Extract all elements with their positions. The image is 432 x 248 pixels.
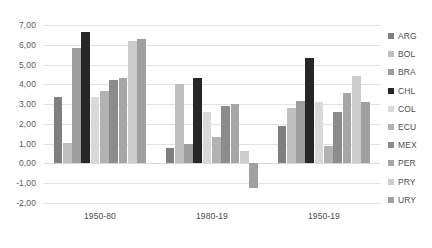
y-axis-tick-label: 1,00 xyxy=(19,139,36,149)
legend-item-label: CHL xyxy=(398,86,415,96)
bar-col-1980-19 xyxy=(203,112,212,163)
legend-item-label: PER xyxy=(398,158,416,168)
bar-bol-1950-80 xyxy=(63,143,72,164)
legend-item-col[interactable]: COL xyxy=(388,100,432,118)
x-axis: 1950-801980-191950-19 xyxy=(44,205,380,227)
bar-col-1950-80 xyxy=(91,97,100,163)
y-axis-tick-label: 3,00 xyxy=(19,99,36,109)
bar-bol-1950-19 xyxy=(287,108,296,163)
y-axis-tick-label: 7,00 xyxy=(19,20,36,30)
bar-ecu-1950-19 xyxy=(324,146,333,164)
legend-swatch-icon xyxy=(388,69,394,75)
bar-mex-1950-80 xyxy=(109,80,118,163)
legend-swatch-icon xyxy=(388,160,394,166)
x-axis-tick-label: 1980-19 xyxy=(196,211,228,221)
bar-ury-1980-19 xyxy=(249,163,258,188)
legend-swatch-icon xyxy=(388,33,394,39)
plot-area xyxy=(44,25,380,203)
legend-item-label: MEX xyxy=(398,140,417,150)
gridline xyxy=(44,203,380,204)
legend-item-bol[interactable]: BOL xyxy=(388,45,432,63)
y-axis-tick-label: 5,00 xyxy=(19,60,36,70)
legend-item-per[interactable]: PER xyxy=(388,154,432,172)
bar-chart: 7,006,005,004,003,002,001,000,00-1,00-2,… xyxy=(0,0,432,248)
y-axis-tick-label: 6,00 xyxy=(19,40,36,50)
bar-pry-1980-19 xyxy=(240,151,249,164)
y-axis-tick-label: 0,00 xyxy=(19,158,36,168)
legend-item-mex[interactable]: MEX xyxy=(388,136,432,154)
legend-item-label: URY xyxy=(398,195,416,205)
legend-swatch-icon xyxy=(388,197,394,203)
bar-col-1950-19 xyxy=(315,102,324,163)
legend-item-arg[interactable]: ARG xyxy=(388,27,432,45)
bar-ury-1950-80 xyxy=(137,39,146,164)
legend-item-label: PRY xyxy=(398,177,416,187)
bars-layer xyxy=(44,25,380,203)
y-axis-tick-label: 2,00 xyxy=(19,119,36,129)
bar-ury-1950-19 xyxy=(361,102,370,163)
bar-mex-1980-19 xyxy=(221,106,230,163)
y-axis-tick-label: -1,00 xyxy=(16,178,36,188)
bar-arg-1950-19 xyxy=(278,126,287,164)
bar-arg-1980-19 xyxy=(166,148,175,164)
legend-swatch-icon xyxy=(388,179,394,185)
bar-per-1950-19 xyxy=(343,93,352,163)
bar-bol-1980-19 xyxy=(175,84,184,163)
legend-item-label: ECU xyxy=(398,122,416,132)
legend-item-label: BOL xyxy=(398,49,415,59)
bar-pry-1950-19 xyxy=(352,76,361,163)
legend: ARGBOLBRACHLCOLECUMEXPERPRYURY xyxy=(388,27,432,209)
legend-item-pry[interactable]: PRY xyxy=(388,173,432,191)
legend-item-bra[interactable]: BRA xyxy=(388,63,432,81)
x-axis-tick-label: 1950-19 xyxy=(308,211,340,221)
legend-swatch-icon xyxy=(388,124,394,130)
bar-pry-1950-80 xyxy=(128,41,137,164)
legend-item-ury[interactable]: URY xyxy=(388,191,432,209)
legend-item-label: BRA xyxy=(398,67,416,77)
bar-bra-1950-19 xyxy=(296,101,305,163)
bar-chl-1950-80 xyxy=(81,32,90,164)
bar-chl-1980-19 xyxy=(193,78,202,163)
legend-swatch-icon xyxy=(388,51,394,57)
bar-per-1980-19 xyxy=(231,104,240,163)
bar-arg-1950-80 xyxy=(54,97,63,163)
y-axis-tick-label: 4,00 xyxy=(19,79,36,89)
x-axis-tick-label: 1950-80 xyxy=(84,211,116,221)
bar-mex-1950-19 xyxy=(333,112,342,163)
y-axis-tick-label: -2,00 xyxy=(16,198,36,208)
legend-item-label: ARG xyxy=(398,31,417,41)
bar-per-1950-80 xyxy=(119,78,128,163)
legend-item-ecu[interactable]: ECU xyxy=(388,118,432,136)
bar-chl-1950-19 xyxy=(305,58,314,164)
legend-swatch-icon xyxy=(388,88,394,94)
y-axis: 7,006,005,004,003,002,001,000,00-1,00-2,… xyxy=(0,25,40,203)
bar-ecu-1980-19 xyxy=(212,137,221,164)
bar-bra-1950-80 xyxy=(72,48,81,164)
legend-item-label: COL xyxy=(398,104,416,114)
bar-ecu-1950-80 xyxy=(100,91,109,163)
legend-swatch-icon xyxy=(388,142,394,148)
legend-item-chl[interactable]: CHL xyxy=(388,82,432,100)
legend-swatch-icon xyxy=(388,106,394,112)
bar-bra-1980-19 xyxy=(184,144,193,164)
